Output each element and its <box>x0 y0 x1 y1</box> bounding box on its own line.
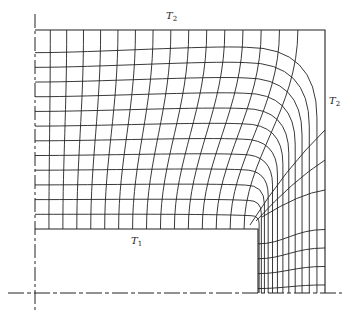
flux-plot-svg <box>0 0 357 318</box>
isotherm <box>35 214 259 293</box>
isotherm <box>35 169 268 293</box>
isotherm <box>35 154 273 293</box>
isotherm <box>35 184 264 293</box>
heat-flow-lines <box>49 30 325 289</box>
isotherm <box>35 199 261 293</box>
flux-plot-figure: T2 T2 T1 <box>0 0 357 318</box>
corner-flow-line <box>262 190 325 217</box>
corner-flow-line <box>256 160 325 221</box>
label-t1-inner: T1 <box>131 236 142 248</box>
label-t2-right: T2 <box>329 96 340 108</box>
inner-boundary-t1 <box>35 229 258 293</box>
label-t2-top: T2 <box>166 11 177 23</box>
isotherm <box>35 78 302 293</box>
isotherm <box>35 139 277 293</box>
flow-line <box>244 30 298 229</box>
isotherm-lines <box>35 47 317 293</box>
isotherm <box>35 93 295 293</box>
